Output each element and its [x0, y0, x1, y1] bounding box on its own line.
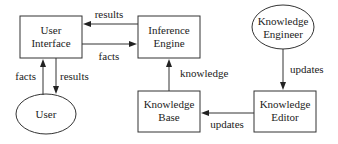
edge-facts-user-to-ui: facts — [15, 59, 46, 95]
edge-updates-editor-to-kb: updates — [201, 110, 254, 130]
edge-label: results — [95, 8, 124, 20]
edge-label: updates — [210, 118, 244, 130]
arrowhead-icon — [53, 86, 59, 94]
arrowhead-icon — [201, 110, 209, 116]
node-label: Knowledge — [260, 98, 311, 110]
edge-knowledge-kb-to-ie: knowledge — [166, 59, 228, 91]
node-knowledge-engineer: Knowledge Engineer — [252, 5, 314, 49]
arrowhead-icon — [40, 59, 46, 67]
edge-facts-ui-to-ie: facts — [82, 41, 137, 62]
node-label: Interface — [31, 37, 70, 49]
edge-results-ui-to-user: results — [53, 58, 89, 94]
node-label: Editor — [271, 111, 299, 123]
edge-label: updates — [290, 63, 324, 75]
arrowhead-icon — [83, 21, 91, 27]
node-label: User — [41, 24, 62, 36]
node-label: Inference — [148, 24, 190, 36]
expert-system-diagram: User Interface Inference Engine Knowledg… — [0, 0, 338, 144]
arrowhead-icon — [280, 82, 286, 90]
node-label: Engineer — [263, 28, 303, 40]
node-user-interface: User Interface — [20, 16, 82, 58]
node-knowledge-base: Knowledge Base — [138, 91, 200, 132]
node-inference-engine: Inference Engine — [138, 16, 200, 58]
node-label: Engine — [153, 37, 184, 49]
arrowhead-icon — [166, 59, 172, 67]
arrowhead-icon — [129, 41, 137, 47]
node-user: User — [16, 94, 76, 134]
node-label: Knowledge — [144, 98, 195, 110]
edge-label: knowledge — [180, 67, 228, 79]
node-knowledge-editor: Knowledge Editor — [254, 91, 316, 132]
edge-label: results — [60, 70, 89, 82]
node-label: User — [36, 108, 57, 120]
edge-updates-engineer-to-editor: updates — [280, 49, 324, 90]
edge-label: facts — [15, 70, 36, 82]
node-label: Base — [158, 111, 180, 123]
node-label: Knowledge — [258, 15, 309, 27]
edge-label: facts — [99, 50, 120, 62]
edge-results-ie-to-ui: results — [83, 8, 138, 27]
